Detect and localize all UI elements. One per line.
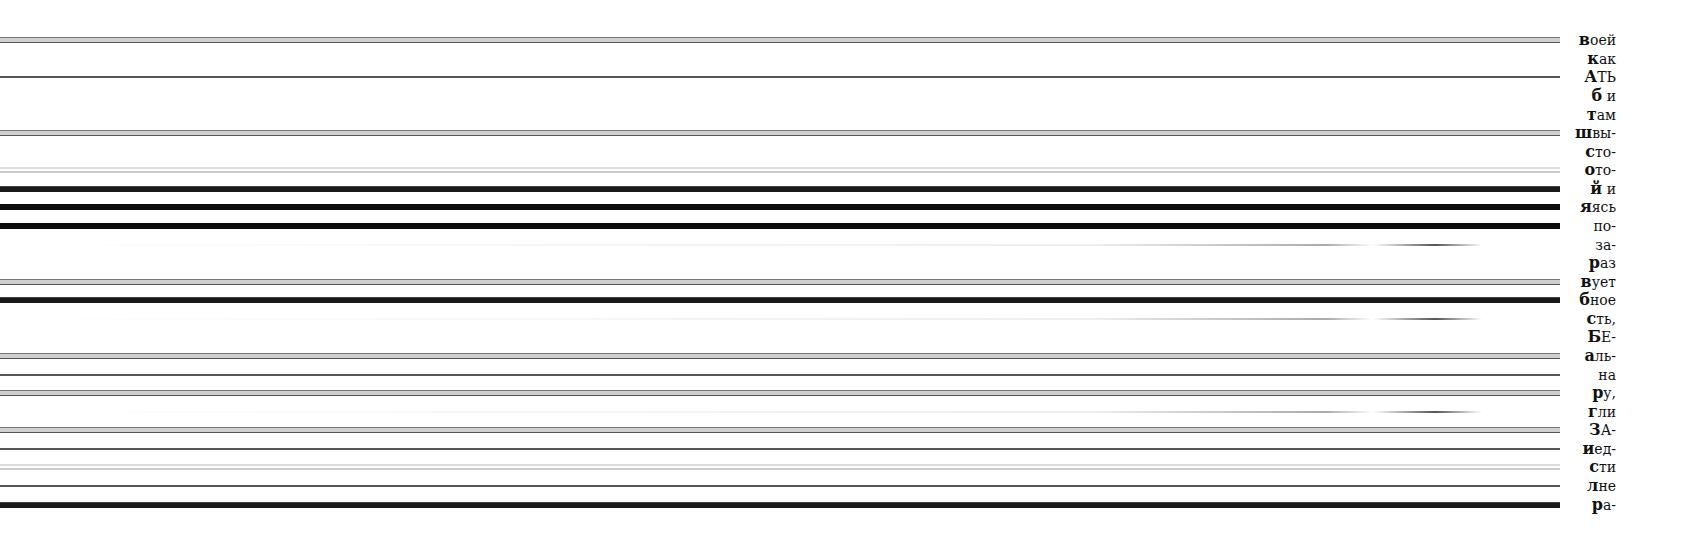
text-line: й и	[0, 179, 1688, 198]
text-line: сти	[0, 457, 1688, 476]
line-ending-fragment: гли	[1588, 402, 1616, 422]
text-line: АТЬ	[0, 67, 1688, 86]
line-ending-fragment: воей	[1579, 30, 1616, 50]
line-ending-fragment: за-	[1595, 235, 1616, 255]
smeared-line-artifact	[0, 411, 1560, 413]
text-line: гли	[0, 402, 1688, 421]
line-ending-fragment: сти	[1589, 457, 1616, 477]
line-ending-fragment: швы-	[1575, 123, 1616, 143]
line-ending-fragment: яясь	[1580, 197, 1616, 217]
line-ending-fragment: сть,	[1586, 309, 1616, 329]
smeared-line-artifact	[0, 390, 1560, 396]
smeared-line-artifact	[0, 427, 1560, 433]
smeared-line-artifact	[0, 297, 1560, 303]
line-ending-fragment: бное	[1579, 290, 1616, 310]
text-line: аль-	[0, 346, 1688, 365]
text-line: по-	[0, 216, 1688, 235]
smeared-line-artifact	[0, 448, 1560, 450]
text-line: б и	[0, 86, 1688, 105]
line-ending-fragment: ото-	[1584, 160, 1616, 180]
line-ending-fragment: лне	[1587, 476, 1616, 496]
text-line: как	[0, 49, 1688, 68]
text-line: сть,	[0, 309, 1688, 328]
text-line: там	[0, 105, 1688, 124]
text-line: ра-	[0, 495, 1688, 514]
text-line: швы-	[0, 123, 1688, 142]
smeared-line-artifact	[0, 37, 1560, 43]
smeared-line-artifact	[0, 76, 1560, 78]
line-ending-fragment: как	[1587, 49, 1616, 69]
text-line: БЕ-	[0, 327, 1688, 346]
line-ending-fragment: й и	[1590, 179, 1616, 199]
text-line: яясь	[0, 197, 1688, 216]
smeared-line-artifact	[0, 318, 1560, 320]
line-ending-fragment: ра-	[1592, 495, 1616, 515]
smeared-line-artifact	[0, 167, 1560, 172]
text-line: вует	[0, 272, 1688, 291]
smeared-line-artifact	[0, 186, 1560, 192]
line-ending-fragment: б и	[1592, 86, 1616, 106]
line-ending-fragment: на	[1598, 365, 1616, 385]
smeared-line-artifact	[0, 279, 1560, 285]
line-ending-fragment: ру,	[1592, 383, 1616, 403]
text-line: на	[0, 365, 1688, 384]
smeared-line-artifact	[0, 244, 1560, 246]
smeared-line-artifact	[0, 502, 1560, 508]
smeared-line-artifact	[0, 223, 1560, 229]
text-line: воей	[0, 30, 1688, 49]
line-ending-fragment: иед-	[1582, 439, 1616, 459]
line-ending-fragment: раз	[1589, 253, 1616, 273]
text-line: ЗА-	[0, 420, 1688, 439]
line-ending-fragment: вует	[1581, 272, 1616, 292]
text-line: ото-	[0, 160, 1688, 179]
text-line: бное	[0, 290, 1688, 309]
text-line: иед-	[0, 439, 1688, 458]
smeared-line-artifact	[0, 353, 1560, 359]
line-ending-fragment: там	[1587, 105, 1616, 125]
text-line: за-	[0, 235, 1688, 254]
smeared-line-artifact	[0, 464, 1560, 469]
line-ending-fragment: БЕ-	[1587, 327, 1616, 347]
line-ending-fragment: сто-	[1585, 142, 1616, 162]
text-line: лне	[0, 476, 1688, 495]
smeared-line-artifact	[0, 374, 1560, 376]
smeared-line-artifact	[0, 130, 1560, 136]
text-line: раз	[0, 253, 1688, 272]
smeared-line-artifact	[0, 485, 1560, 487]
line-ending-fragment: ЗА-	[1589, 420, 1616, 440]
line-ending-fragment: АТЬ	[1584, 67, 1616, 87]
text-line: сто-	[0, 142, 1688, 161]
smeared-line-artifact	[0, 204, 1560, 210]
text-line: ру,	[0, 383, 1688, 402]
line-ending-fragment: по-	[1594, 216, 1617, 236]
line-ending-fragment: аль-	[1584, 346, 1616, 366]
